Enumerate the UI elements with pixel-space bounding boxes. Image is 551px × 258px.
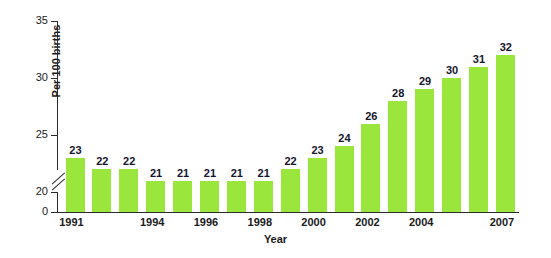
y-tick-label: 30 [18, 72, 48, 83]
bar-slot: 32 [492, 18, 519, 212]
bar [119, 169, 138, 212]
y-tick-label: 20 [18, 186, 48, 197]
x-tick-label: 2007 [480, 216, 524, 228]
bar-slot: 22 [277, 18, 304, 212]
x-tick-label: 1998 [238, 216, 282, 228]
bar [415, 89, 434, 212]
bar [442, 78, 461, 212]
bar-value-label: 21 [197, 168, 224, 179]
bar [146, 181, 165, 212]
bar [281, 169, 300, 212]
bar-value-label: 31 [466, 54, 493, 65]
bar [361, 124, 380, 212]
bar [254, 181, 273, 212]
bar-slot: 21 [223, 18, 250, 212]
bar-value-label: 24 [331, 133, 358, 144]
bar-slot: 28 [385, 18, 412, 212]
y-tick-label: 25 [18, 129, 48, 140]
bar [496, 55, 515, 212]
bar [388, 101, 407, 212]
bar-value-label: 21 [223, 168, 250, 179]
bar-value-label: 21 [250, 168, 277, 179]
bar-value-label: 23 [304, 145, 331, 156]
bar [335, 146, 354, 212]
x-tick-label: 1996 [184, 216, 228, 228]
y-tick-label: 0 [18, 206, 48, 217]
bar-value-label: 29 [412, 76, 439, 87]
bar-value-label: 22 [89, 156, 116, 167]
bar-slot: 21 [170, 18, 197, 212]
bar-slot: 22 [116, 18, 143, 212]
bar-slot: 29 [412, 18, 439, 212]
x-tick-label: 2002 [345, 216, 389, 228]
x-axis-line [57, 212, 519, 213]
bar-slot: 26 [358, 18, 385, 212]
plot-area: 2322222121212121222324262829303132 [58, 18, 519, 212]
bar-chart: Per 100 births 020253035 232222212121212… [0, 0, 551, 258]
bar-value-label: 23 [62, 145, 89, 156]
bar-value-label: 32 [492, 42, 519, 53]
bar-value-label: 26 [358, 111, 385, 122]
bar-value-label: 22 [116, 156, 143, 167]
bar-slot: 21 [197, 18, 224, 212]
bar-slot: 23 [304, 18, 331, 212]
bar-slot: 22 [89, 18, 116, 212]
bar [92, 169, 111, 212]
bar [200, 181, 219, 212]
bar-value-label: 22 [277, 156, 304, 167]
x-tick-label: 1994 [130, 216, 174, 228]
x-axis-title: Year [0, 233, 551, 245]
bar [308, 158, 327, 212]
bar [66, 158, 85, 212]
bar-value-label: 21 [143, 168, 170, 179]
bar-slot: 23 [62, 18, 89, 212]
y-tick-label: 35 [18, 15, 48, 26]
bar-slot: 21 [250, 18, 277, 212]
bar-value-label: 28 [385, 88, 412, 99]
x-tick-label: 2004 [399, 216, 443, 228]
x-tick-label: 1991 [50, 216, 94, 228]
bar [227, 181, 246, 212]
x-tick-label: 2000 [292, 216, 336, 228]
bar [469, 67, 488, 212]
bar [173, 181, 192, 212]
bar-slot: 24 [331, 18, 358, 212]
bar-value-label: 21 [170, 168, 197, 179]
bar-value-label: 30 [439, 65, 466, 76]
bar-slot: 30 [439, 18, 466, 212]
bar-slot: 21 [143, 18, 170, 212]
bar-slot: 31 [466, 18, 493, 212]
